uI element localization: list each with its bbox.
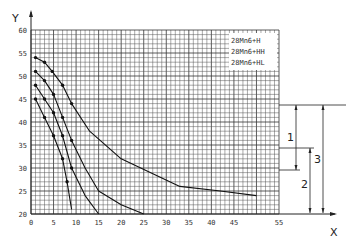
svg-text:35: 35: [185, 219, 193, 227]
svg-text:40: 40: [207, 219, 215, 227]
svg-text:60: 60: [19, 27, 27, 35]
svg-text:45: 45: [19, 96, 27, 104]
svg-text:25: 25: [140, 219, 148, 227]
x-axis-label: X: [330, 226, 338, 239]
svg-text:35: 35: [19, 142, 27, 150]
svg-text:30: 30: [162, 219, 170, 227]
svg-text:15: 15: [94, 219, 102, 227]
svg-text:45: 45: [230, 219, 238, 227]
svg-text:20: 20: [117, 219, 125, 227]
svg-text:1: 1: [287, 131, 294, 144]
legend-item: 28Mn6+H: [231, 37, 261, 45]
svg-text:2: 2: [301, 178, 308, 191]
dimension-annotations: 123: [279, 105, 346, 213]
svg-text:55: 55: [19, 50, 27, 58]
svg-text:55: 55: [275, 219, 283, 227]
svg-text:30: 30: [19, 165, 27, 173]
svg-text:10: 10: [72, 219, 80, 227]
y-axis-label: Y: [11, 12, 19, 25]
svg-text:40: 40: [19, 119, 27, 127]
legend-item: 28Mn6+HH: [231, 48, 265, 56]
legend-item: 28Mn6+HL: [231, 59, 265, 67]
svg-text:50: 50: [19, 73, 27, 81]
legend: 28Mn6+H28Mn6+HH28Mn6+HL: [229, 33, 277, 70]
svg-text:25: 25: [19, 188, 27, 196]
svg-text:5: 5: [51, 219, 55, 227]
svg-text:0: 0: [29, 219, 33, 227]
svg-text:20: 20: [19, 211, 27, 219]
chart: YX 0510152025303540455520253035404550556…: [0, 0, 349, 250]
svg-text:3: 3: [314, 153, 321, 166]
